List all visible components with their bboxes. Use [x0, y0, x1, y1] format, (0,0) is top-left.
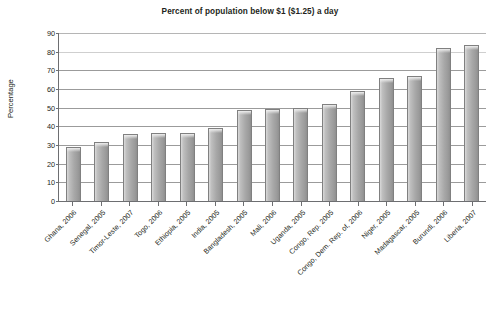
bar-slot — [287, 33, 315, 201]
x-axis-tick — [358, 202, 359, 206]
x-tick-slot — [115, 202, 144, 206]
x-axis-tick — [129, 202, 130, 206]
x-axis-tick — [472, 202, 473, 206]
y-axis-tick-label-60: 60 — [31, 85, 55, 94]
y-axis-tick-label-10: 10 — [31, 178, 55, 187]
x-tick-slot — [429, 202, 458, 206]
x-tick-slot — [372, 202, 401, 206]
x-axis-tick — [72, 202, 73, 206]
chart-title: Percent of population below $1 ($1.25) a… — [0, 7, 500, 16]
bar[interactable] — [322, 104, 337, 201]
x-tick-slot — [343, 202, 372, 206]
x-axis-tick — [186, 202, 187, 206]
x-tick-slot — [286, 202, 315, 206]
bar[interactable] — [293, 108, 308, 201]
x-tick-slot — [58, 202, 87, 206]
x-axis-tick — [243, 202, 244, 206]
bar[interactable] — [208, 128, 223, 201]
bar[interactable] — [379, 78, 394, 201]
bar[interactable] — [151, 133, 166, 201]
bar-slot — [59, 33, 87, 201]
y-axis-tick-label-0: 0 — [31, 197, 55, 206]
x-axis-tick — [329, 202, 330, 206]
bar-slot — [201, 33, 229, 201]
bar-slot — [116, 33, 144, 201]
bar[interactable] — [407, 76, 422, 201]
x-axis-tick — [443, 202, 444, 206]
chart-container: Percent of population below $1 ($1.25) a… — [0, 0, 500, 324]
y-axis-tick-label-70: 70 — [31, 66, 55, 75]
bar-slot — [230, 33, 258, 201]
x-axis-tick — [301, 202, 302, 206]
y-axis-title: Percentage — [6, 79, 15, 118]
bar-slot — [315, 33, 343, 201]
x-axis-tick — [101, 202, 102, 206]
bar-slot — [173, 33, 201, 201]
bar[interactable] — [123, 134, 138, 201]
bar-slot — [458, 33, 486, 201]
bar[interactable] — [237, 110, 252, 201]
bar[interactable] — [464, 45, 479, 201]
plot-area: 9080706050403020100 — [58, 33, 486, 202]
bar-series — [59, 33, 486, 201]
x-tick-slot — [229, 202, 258, 206]
x-tick-slot — [400, 202, 429, 206]
bar-slot — [258, 33, 286, 201]
x-tick-slot — [201, 202, 230, 206]
bar-slot — [429, 33, 457, 201]
x-axis-tick — [158, 202, 159, 206]
x-axis-tick — [386, 202, 387, 206]
bar-slot — [401, 33, 429, 201]
x-axis-ticks — [58, 202, 486, 206]
bar[interactable] — [350, 91, 365, 201]
y-axis-tick-label-40: 40 — [31, 122, 55, 131]
x-tick-slot — [172, 202, 201, 206]
x-tick-slot — [87, 202, 116, 206]
y-axis-tick-label-20: 20 — [31, 159, 55, 168]
y-axis-tick-label-80: 80 — [31, 47, 55, 56]
x-tick-slot — [144, 202, 173, 206]
x-axis-tick — [215, 202, 216, 206]
x-tick-slot — [258, 202, 287, 206]
y-axis-tick-label-50: 50 — [31, 103, 55, 112]
x-axis-tick — [272, 202, 273, 206]
x-tick-slot — [315, 202, 344, 206]
bar-slot — [87, 33, 115, 201]
bar-slot — [344, 33, 372, 201]
bar[interactable] — [66, 147, 81, 201]
bar[interactable] — [94, 142, 109, 201]
bar-slot — [372, 33, 400, 201]
bar-slot — [144, 33, 172, 201]
bar[interactable] — [436, 48, 451, 201]
y-axis-tick-label-30: 30 — [31, 141, 55, 150]
bar[interactable] — [180, 133, 195, 201]
bar[interactable] — [265, 109, 280, 201]
x-tick-slot — [457, 202, 486, 206]
x-axis-tick — [415, 202, 416, 206]
y-axis-tick-label-90: 90 — [31, 29, 55, 38]
